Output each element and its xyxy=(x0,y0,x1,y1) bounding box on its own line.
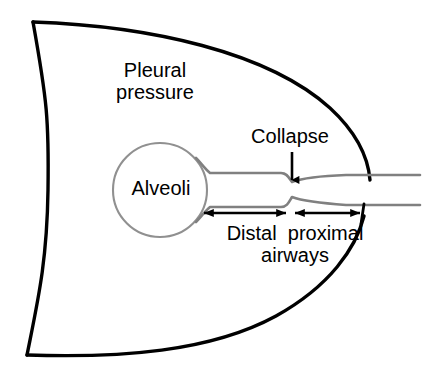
pleural-pressure-line-2: pressure xyxy=(116,81,194,103)
collapse-label: Collapse xyxy=(200,126,380,148)
pleural-pressure-label: Pleuralpressure xyxy=(0,60,310,103)
alveoli-label: Alveoli xyxy=(104,178,218,200)
airways-line-2: airways xyxy=(261,244,329,266)
airways-label: Distal proximalairways xyxy=(200,223,390,266)
diagram-canvas xyxy=(0,0,437,379)
airway-collapse-diagram: Pleuralpressure Collapse Alveoli Distal … xyxy=(0,0,437,379)
airways-line-1: Distal proximal xyxy=(227,222,364,244)
airway-lower-wall xyxy=(196,197,420,222)
airway-upper-wall xyxy=(196,158,420,182)
pleural-pressure-line-1: Pleural xyxy=(124,59,186,81)
